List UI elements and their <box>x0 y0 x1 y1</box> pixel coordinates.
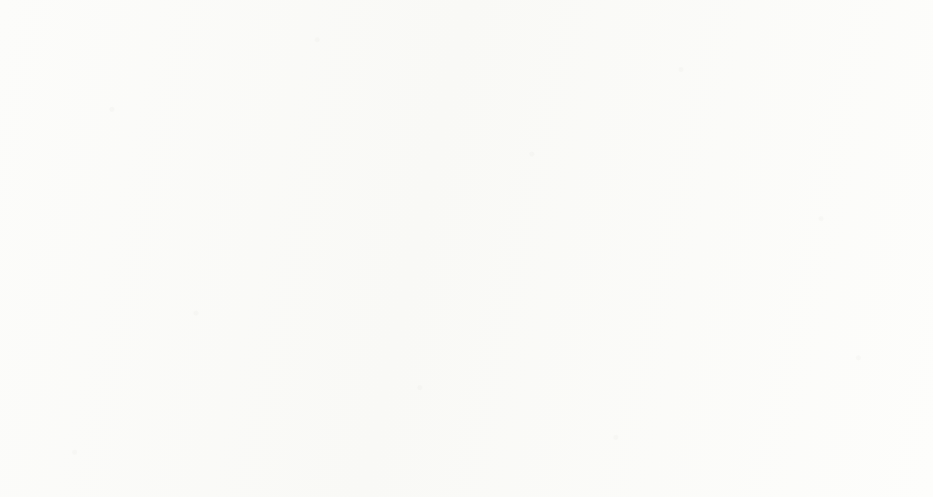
data-point-2016 <box>704 154 715 165</box>
series-markers <box>95 58 868 350</box>
data-point-2014 <box>628 189 639 200</box>
data-point-2017 <box>780 132 791 143</box>
data-point-2013 <box>552 206 563 217</box>
data-label-2004: 10.5 <box>76 374 117 395</box>
data-point-2008 <box>247 293 258 304</box>
chart-legend: Jobs (thousands) <box>0 446 933 465</box>
data-label-2010: 28.0 <box>409 290 450 311</box>
data-label-2014: 45.0 <box>637 216 678 237</box>
data-label-2017: 58.0 <box>790 160 831 181</box>
data-point-2020 <box>856 58 867 69</box>
data-label-2007: 16.5 <box>160 342 201 363</box>
legend-line-marker-icon <box>370 447 414 465</box>
legend-label-jobs: Jobs (thousands) <box>417 446 563 465</box>
data-point-2009 <box>323 267 334 278</box>
data-label-2009: 27.0 <box>333 295 374 316</box>
data-label-2016: 53.0 <box>714 181 755 202</box>
data-point-2007 <box>171 313 182 324</box>
data-label-2020: 75.0 <box>828 86 869 107</box>
data-point-2011 <box>475 250 486 261</box>
chart-figure: 01020304050607080 2004200720082009201020… <box>0 0 933 497</box>
data-point-2004 <box>95 339 106 350</box>
data-label-2008: 21.0 <box>256 321 297 342</box>
line-chart: 01020304050607080 2004200720082009201020… <box>0 0 933 497</box>
series-line <box>100 64 862 345</box>
data-label-2013: 41.0 <box>561 234 602 255</box>
data-point-2010 <box>399 263 410 274</box>
series-jobs-thousands <box>0 0 933 497</box>
data-label-2011: 31.0 <box>485 277 526 298</box>
